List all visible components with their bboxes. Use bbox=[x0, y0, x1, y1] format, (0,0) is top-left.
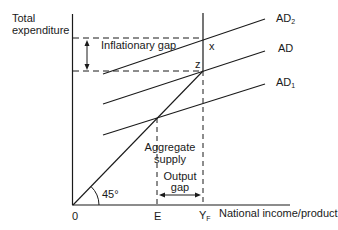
ad2-label: AD2 bbox=[276, 12, 295, 28]
arrow-head-left bbox=[159, 193, 165, 198]
aggregate-supply-label-line2: supply bbox=[140, 153, 200, 165]
output-gap-label-line2: gap bbox=[158, 181, 202, 193]
ad-main: AD bbox=[278, 42, 293, 54]
arrow-head-up bbox=[85, 40, 90, 46]
ad2-main: AD bbox=[276, 12, 291, 24]
ad2-sub: 2 bbox=[291, 18, 295, 25]
aggregate-supply-label-line1: Aggregate bbox=[140, 141, 200, 153]
point-z-label: z bbox=[195, 58, 201, 70]
point-x-label: x bbox=[209, 40, 215, 52]
yf-sub: F bbox=[206, 215, 210, 222]
x-axis-label: National income/product bbox=[219, 207, 338, 219]
ad1-label: AD1 bbox=[276, 76, 295, 92]
y-axis-label-line2: expenditure bbox=[12, 24, 70, 36]
ad1-sub: 1 bbox=[291, 82, 295, 89]
ad1-main: AD bbox=[276, 76, 291, 88]
ad-label: AD bbox=[278, 42, 293, 54]
inflationary-gap-label: Inflationary gap bbox=[101, 39, 176, 51]
angle-arc bbox=[91, 187, 99, 206]
angle-label: 45° bbox=[102, 188, 119, 200]
y-axis-label-line1: Total bbox=[12, 12, 35, 24]
yf-tick-label: YF bbox=[199, 209, 211, 225]
arrow-head-down bbox=[85, 64, 90, 70]
ad1-curve bbox=[103, 84, 265, 135]
arrow-head-right bbox=[195, 193, 201, 198]
origin-label: 0 bbox=[72, 210, 78, 222]
ad-curve bbox=[103, 51, 265, 104]
e-tick-label: E bbox=[154, 210, 161, 222]
